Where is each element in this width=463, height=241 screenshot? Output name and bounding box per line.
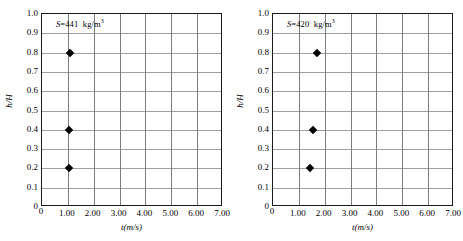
x-tick-label: 5.00: [162, 209, 178, 218]
y-tick-label: 0.5: [243, 105, 269, 114]
y-axis-title: h/H: [4, 94, 14, 108]
y-tick-label: 0.1: [12, 182, 38, 191]
gridline-horizontal: [42, 111, 221, 112]
x-tick-label: 1.00: [59, 209, 75, 218]
data-point-marker: [65, 126, 73, 134]
x-tick-label: 4.00: [368, 209, 384, 218]
y-axis-ticks: 00.10.20.30.40.50.60.70.80.91.0: [239, 0, 269, 241]
y-tick-label: 0.4: [243, 124, 269, 133]
y-tick-label: 0: [243, 202, 269, 211]
gridline-horizontal: [273, 188, 452, 189]
gridline-horizontal: [42, 149, 221, 150]
gridline-vertical: [402, 14, 403, 205]
y-tick-label: 0.9: [243, 28, 269, 37]
chart-panel-left: S=441 kg/m300.10.20.30.40.50.60.70.80.91…: [0, 0, 231, 241]
x-tick-label: 7.00: [214, 209, 230, 218]
data-point-marker: [309, 126, 317, 134]
y-tick-label: 0.7: [243, 66, 269, 75]
gridline-horizontal: [42, 33, 221, 34]
y-tick-label: 0.1: [243, 182, 269, 191]
y-tick-label: 1.0: [12, 9, 38, 18]
data-point-marker: [66, 48, 74, 56]
annotation-unit-exponent: 3: [101, 18, 104, 24]
gridline-horizontal: [42, 91, 221, 92]
y-tick-label: 0.3: [12, 144, 38, 153]
gridline-vertical: [376, 14, 377, 205]
data-point-marker: [306, 164, 314, 172]
x-axis-title: t(m/s): [272, 222, 453, 232]
figure-two-panel-scatter: S=441 kg/m300.10.20.30.40.50.60.70.80.91…: [0, 0, 463, 241]
gridline-horizontal: [42, 188, 221, 189]
plot-area: [272, 13, 453, 206]
annotation-value: 441: [65, 19, 78, 29]
x-tick-label: 2.00: [316, 209, 332, 218]
data-point-marker: [65, 164, 73, 172]
x-tick-label: 6.00: [419, 209, 435, 218]
y-tick-label: 0.4: [12, 124, 38, 133]
annotation-value: 420: [296, 19, 309, 29]
panel-annotation: S=420 kg/m3: [287, 19, 335, 29]
gridline-vertical: [120, 14, 121, 205]
y-tick-label: 1.0: [243, 9, 269, 18]
gridline-vertical: [351, 14, 352, 205]
x-tick-label: 4.00: [137, 209, 153, 218]
y-tick-label: 0.6: [12, 86, 38, 95]
annotation-unit: kg/m: [83, 19, 101, 29]
gridline-vertical: [171, 14, 172, 205]
x-axis-title: t(m/s): [41, 222, 222, 232]
gridline-vertical: [145, 14, 146, 205]
gridline-vertical: [197, 14, 198, 205]
gridline-horizontal: [273, 91, 452, 92]
gridline-horizontal: [273, 53, 452, 54]
annotation-unit: kg/m: [314, 19, 332, 29]
gridline-vertical: [428, 14, 429, 205]
data-point-marker: [313, 48, 321, 56]
x-tick-label: 0: [270, 207, 275, 216]
gridline-horizontal: [273, 130, 452, 131]
gridline-horizontal: [273, 168, 452, 169]
y-tick-label: 0.6: [243, 86, 269, 95]
y-tick-label: 0.5: [12, 105, 38, 114]
x-tick-label: 7.00: [445, 209, 461, 218]
y-tick-label: 0.3: [243, 144, 269, 153]
x-tick-label: 3.00: [111, 209, 127, 218]
x-axis-title-text: t(m/s): [121, 222, 142, 232]
chart-panel-right: S=420 kg/m300.10.20.30.40.50.60.70.80.91…: [231, 0, 463, 241]
y-tick-label: 0.8: [12, 47, 38, 56]
x-tick-label: 1.00: [290, 209, 306, 218]
panel-annotation: S=441 kg/m3: [56, 19, 104, 29]
y-tick-label: 0.2: [12, 163, 38, 172]
gridline-horizontal: [273, 111, 452, 112]
x-tick-label: 3.00: [342, 209, 358, 218]
gridline-vertical: [325, 14, 326, 205]
plot-area: [41, 13, 222, 206]
x-axis-title-text: t(m/s): [352, 222, 373, 232]
y-axis-title: h/H: [235, 94, 245, 108]
gridline-vertical: [94, 14, 95, 205]
gridline-vertical: [299, 14, 300, 205]
y-tick-label: 0.2: [243, 163, 269, 172]
x-tick-label: 5.00: [393, 209, 409, 218]
gridline-horizontal: [42, 72, 221, 73]
gridline-horizontal: [273, 33, 452, 34]
y-tick-label: 0.8: [243, 47, 269, 56]
y-tick-label: 0: [12, 202, 38, 211]
y-axis-ticks: 00.10.20.30.40.50.60.70.80.91.0: [8, 0, 38, 241]
gridline-vertical: [68, 14, 69, 205]
gridline-horizontal: [273, 72, 452, 73]
x-tick-label: 6.00: [188, 209, 204, 218]
x-tick-label: 0: [39, 207, 44, 216]
y-tick-label: 0.7: [12, 66, 38, 75]
y-tick-label: 0.9: [12, 28, 38, 37]
annotation-unit-exponent: 3: [332, 18, 335, 24]
gridline-horizontal: [273, 149, 452, 150]
x-tick-label: 2.00: [85, 209, 101, 218]
